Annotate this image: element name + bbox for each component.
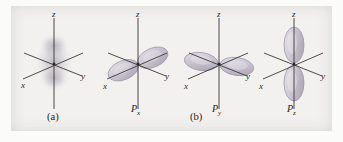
axes-panel-a xyxy=(11,6,97,126)
axis-label-y: y xyxy=(321,72,325,81)
axis-label-z: z xyxy=(292,10,296,19)
axis-label-x: x xyxy=(184,82,188,91)
orbital-label-py-subscript: y xyxy=(218,109,221,117)
axis-label-x: x xyxy=(103,82,107,91)
panel-pz-orbital: z x y Pz xyxy=(252,6,338,126)
orbital-label-px-subscript: x xyxy=(137,109,140,117)
origin-point xyxy=(293,63,296,66)
pz-lobe-negative-highlight xyxy=(287,70,297,92)
orbital-label-pz-subscript: z xyxy=(293,109,296,117)
panel-s-orbital: z x y xyxy=(11,6,97,126)
axis-label-y: y xyxy=(81,72,85,81)
axis-label-x: x xyxy=(259,82,263,91)
axis-label-y: y xyxy=(165,72,169,81)
orbital-figure: z x y z xyxy=(0,0,343,142)
panel-px-orbital: z x y Px xyxy=(97,6,183,126)
origin-point xyxy=(53,63,56,66)
axis-label-z: z xyxy=(52,10,56,19)
orbital-label-pz: Pz xyxy=(287,104,296,117)
axis-label-z: z xyxy=(217,10,221,19)
axis-label-z: z xyxy=(136,10,140,19)
axis-label-y: y xyxy=(246,72,250,81)
pz-lobe-positive-highlight xyxy=(287,32,297,54)
caption-a: (a) xyxy=(47,112,59,123)
panel-py-orbital: z x y Py xyxy=(176,6,262,126)
orbital-label-px: Px xyxy=(131,104,140,117)
axis-label-x: x xyxy=(21,81,25,90)
orbital-label-py: Py xyxy=(212,104,221,117)
origin-point xyxy=(218,63,221,66)
origin-point xyxy=(137,63,140,66)
caption-b: (b) xyxy=(190,112,202,123)
